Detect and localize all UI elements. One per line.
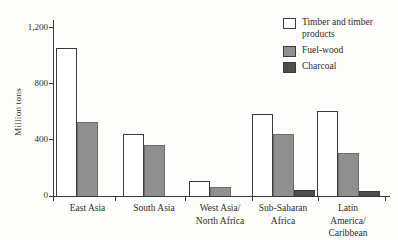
bar-east-asia-fuel-wood — [77, 122, 98, 196]
x-tick-mark — [185, 197, 186, 201]
y-tick-label: 400 — [14, 135, 48, 144]
bar-east-asia-timber-and-timber-products — [56, 48, 77, 196]
x-category-label-latin: Latin America/ Caribbean — [306, 202, 390, 240]
legend-swatch-timber — [283, 18, 296, 29]
y-tick-label: 0 — [14, 191, 48, 200]
y-axis — [53, 20, 54, 197]
bar-latin-fuel-wood — [338, 153, 359, 196]
bar-south-asia-fuel-wood — [144, 145, 165, 197]
bar-sub-saharan-timber-and-timber-products — [252, 114, 273, 196]
bar-chart: Million tons 04008001,200East AsiaSouth … — [0, 0, 398, 240]
x-tick-mark — [252, 197, 253, 201]
legend-label-timber: Timber and timber products — [302, 17, 396, 41]
x-tick-mark — [115, 197, 116, 201]
y-tick-label: 1,200 — [14, 23, 48, 32]
y-axis-label: Million tons — [13, 88, 23, 136]
legend-item-charcoal: Charcoal — [283, 61, 396, 73]
x-tick-mark — [385, 197, 386, 201]
x-tick-mark — [318, 197, 319, 201]
legend: Timber and timber products Fuel-wood Cha… — [283, 17, 396, 73]
bar-sub-saharan-fuel-wood — [273, 134, 294, 197]
bar-latin-timber-and-timber-products — [317, 111, 338, 196]
y-tick-label: 800 — [14, 79, 48, 88]
bar-west-asia-timber-and-timber-products — [189, 181, 210, 196]
legend-label-charcoal: Charcoal — [302, 61, 396, 73]
x-tick-mark — [53, 197, 54, 201]
x-axis — [53, 196, 390, 197]
legend-item-fuel-wood: Fuel-wood — [283, 45, 396, 57]
legend-item-timber: Timber and timber products — [283, 17, 396, 41]
legend-swatch-fuel-wood — [283, 46, 296, 57]
legend-swatch-charcoal — [283, 62, 296, 73]
legend-label-fuel-wood: Fuel-wood — [302, 45, 396, 57]
bar-south-asia-timber-and-timber-products — [123, 134, 144, 197]
